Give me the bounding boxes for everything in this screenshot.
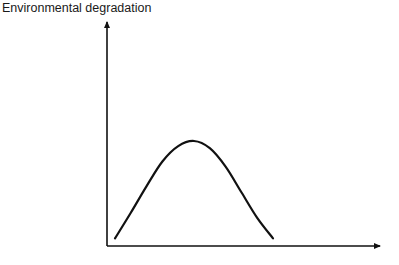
inverted-u-curve — [115, 141, 273, 238]
chart-plot — [0, 0, 399, 265]
